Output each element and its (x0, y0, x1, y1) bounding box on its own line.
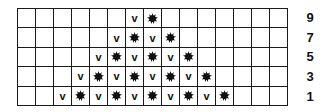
slip-stitch-v-icon: v (131, 91, 137, 102)
knitting-chart-grid: vvvvvvvvvvvvvvv (17, 8, 288, 106)
chart-cell (180, 9, 198, 28)
chart-cell (180, 87, 198, 106)
slip-stitch-v-icon: v (95, 91, 101, 102)
slip-stitch-v-icon: v (149, 33, 155, 44)
chart-cell (270, 28, 288, 47)
chart-cell (54, 28, 72, 47)
chart-cell (90, 67, 108, 86)
chart-cell (36, 87, 54, 106)
slip-stitch-v-icon: v (59, 91, 65, 102)
slip-stitch-v-icon: v (77, 71, 83, 82)
chart-cell (36, 48, 54, 67)
chart-cell (90, 9, 108, 28)
chart-cell (216, 9, 234, 28)
chart-cell (108, 87, 126, 106)
chart-cell (234, 9, 252, 28)
chart-cell: v (126, 48, 144, 67)
chart-cell: v (198, 87, 216, 106)
chart-cell (72, 87, 90, 106)
chart-cell (234, 87, 252, 106)
chart-cell (270, 87, 288, 106)
chart-cell: v (108, 28, 126, 47)
row-label: 3 (300, 67, 320, 87)
bobble-burst-icon (183, 51, 194, 62)
row-label: 9 (300, 8, 320, 28)
chart-cell (18, 48, 36, 67)
chart-cell: v (180, 67, 198, 86)
chart-cell (180, 28, 198, 47)
bobble-burst-icon (165, 71, 176, 82)
chart-cell (216, 87, 234, 106)
bobble-burst-icon (219, 90, 230, 101)
chart-cell (252, 48, 270, 67)
bobble-burst-icon (93, 71, 104, 82)
chart-cell (36, 9, 54, 28)
chart-cell: v (90, 87, 108, 106)
bobble-burst-icon (75, 90, 86, 101)
chart-cell (270, 67, 288, 86)
chart-cell (144, 9, 162, 28)
bobble-burst-icon (129, 32, 140, 43)
chart-cell (72, 28, 90, 47)
chart-cell (54, 67, 72, 86)
chart-cell (36, 67, 54, 86)
chart-cell (234, 28, 252, 47)
slip-stitch-v-icon: v (203, 91, 209, 102)
chart-cell (252, 28, 270, 47)
chart-cell (162, 9, 180, 28)
chart-cell (162, 67, 180, 86)
chart-cell (216, 67, 234, 86)
chart-cell (162, 28, 180, 47)
chart-cell (126, 28, 144, 47)
chart-cell: v (108, 67, 126, 86)
slip-stitch-v-icon: v (113, 71, 119, 82)
slip-stitch-v-icon: v (167, 52, 173, 63)
chart-cell (198, 48, 216, 67)
chart-cell (234, 48, 252, 67)
chart-cell (270, 48, 288, 67)
bobble-burst-icon (129, 71, 140, 82)
chart-cell (144, 87, 162, 106)
chart-cell: v (144, 28, 162, 47)
chart-cell (216, 28, 234, 47)
slip-stitch-v-icon: v (95, 52, 101, 63)
chart-cell (234, 67, 252, 86)
chart-cell (270, 9, 288, 28)
chart-cell: v (162, 48, 180, 67)
chart-cell (252, 9, 270, 28)
row-number-labels: 97531 (300, 8, 320, 106)
bobble-burst-icon (111, 90, 122, 101)
chart-cell: v (126, 87, 144, 106)
chart-cell (198, 9, 216, 28)
chart-cell (72, 48, 90, 67)
row-label: 1 (300, 86, 320, 106)
chart-cell (144, 48, 162, 67)
chart-cell (126, 67, 144, 86)
chart-cell (252, 87, 270, 106)
chart-cell (108, 9, 126, 28)
chart-cell: v (144, 67, 162, 86)
row-label: 7 (300, 28, 320, 48)
chart-cell (180, 48, 198, 67)
chart-cell (216, 48, 234, 67)
chart-cell: v (54, 87, 72, 106)
chart-cell (18, 9, 36, 28)
chart-cell (198, 67, 216, 86)
bobble-burst-icon (111, 51, 122, 62)
chart-cell (54, 48, 72, 67)
bobble-burst-icon (147, 13, 158, 24)
bobble-burst-icon (201, 71, 212, 82)
chart-cell (54, 9, 72, 28)
chart-cell: v (162, 87, 180, 106)
chart-cell (90, 28, 108, 47)
chart-cell (198, 28, 216, 47)
chart-cell (36, 28, 54, 47)
slip-stitch-v-icon: v (185, 71, 191, 82)
bobble-burst-icon (165, 32, 176, 43)
chart-cell: v (126, 9, 144, 28)
chart-cell (252, 67, 270, 86)
chart-cell (72, 9, 90, 28)
chart-cell: v (72, 67, 90, 86)
chart-cell (18, 87, 36, 106)
chart-cell (18, 28, 36, 47)
